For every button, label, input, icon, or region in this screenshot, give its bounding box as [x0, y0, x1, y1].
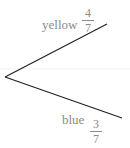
denominator: 7 [90, 133, 102, 145]
numerator: 3 [90, 118, 102, 130]
probability-yellow: 4 7 [82, 7, 94, 34]
numerator: 4 [82, 7, 94, 19]
branch-label-blue: blue [62, 113, 84, 126]
denominator: 7 [82, 22, 94, 34]
branch-label-yellow: yellow [42, 18, 77, 31]
probability-blue: 3 7 [90, 118, 102, 145]
